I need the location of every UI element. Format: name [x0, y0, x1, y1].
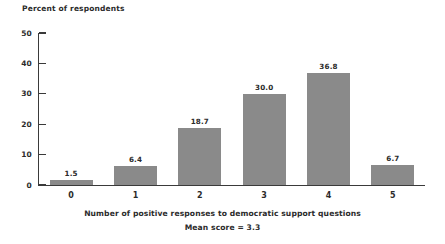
- bar-rect: [307, 73, 350, 185]
- bar[interactable]: 1.5: [50, 180, 93, 185]
- x-tick-label: 5: [371, 191, 414, 200]
- x-tick-label: 4: [307, 191, 350, 200]
- x-tick-label: 1: [114, 191, 157, 200]
- x-tick-label: 0: [50, 191, 93, 200]
- bar-rect: [371, 165, 414, 185]
- bar-value-label: 6.4: [129, 155, 142, 164]
- bar[interactable]: 18.7: [178, 128, 221, 185]
- bar-value-label: 1.5: [65, 169, 78, 178]
- x-tick-label: 2: [178, 191, 221, 200]
- mean-score-annotation: Mean score = 3.3: [0, 223, 445, 232]
- x-axis-title: Number of positive responses to democrat…: [0, 209, 445, 218]
- bars-layer: 1.506.4118.7230.0336.846.75: [0, 0, 445, 244]
- bar[interactable]: 6.4: [114, 166, 157, 185]
- bar[interactable]: 6.7: [371, 165, 414, 185]
- bar-chart: Percent of respondents 01020304050 1.506…: [0, 0, 445, 244]
- bar-rect: [114, 166, 157, 185]
- bar-rect: [50, 180, 93, 185]
- bar-rect: [178, 128, 221, 185]
- bar-value-label: 6.7: [386, 154, 399, 163]
- bar-value-label: 36.8: [319, 62, 337, 71]
- bar[interactable]: 30.0: [243, 94, 286, 185]
- bar[interactable]: 36.8: [307, 73, 350, 185]
- x-tick-label: 3: [243, 191, 286, 200]
- bar-rect: [243, 94, 286, 185]
- bar-value-label: 18.7: [191, 117, 209, 126]
- bar-value-label: 30.0: [255, 83, 273, 92]
